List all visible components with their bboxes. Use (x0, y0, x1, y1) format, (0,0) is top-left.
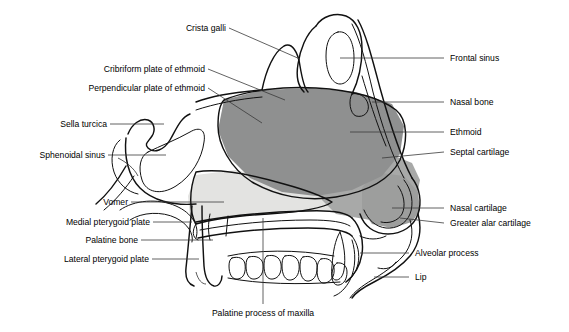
label-perpendicular-plate-of-ethmoid: Perpendicular plate of ethmoid (88, 83, 205, 93)
upper-lip-inner (350, 220, 412, 298)
teeth-row (228, 251, 347, 285)
label-lip: Lip (415, 272, 427, 282)
teeth-gumline (228, 251, 334, 256)
label-ethmoid: Ethmoid (450, 127, 482, 137)
label-crista-galli: Crista galli (186, 23, 226, 33)
sphenoid-body-lower (126, 138, 196, 204)
label-nasal-cartilage: Nasal cartilage (450, 203, 507, 213)
tooth (264, 255, 281, 279)
anatomy-diagram: Crista galli Cribriform plate of ethmoid… (0, 0, 569, 332)
sella-turcica (128, 114, 190, 151)
tooth (282, 255, 299, 280)
teeth-occlusal-line (228, 278, 340, 284)
label-cribriform-plate-of-ethmoid: Cribriform plate of ethmoid (104, 64, 205, 74)
label-medial-pterygoid-plate: Medial pterygoid plate (66, 217, 150, 227)
frontal-bone-contour (316, 14, 362, 94)
label-septal-cartilage: Septal cartilage (450, 147, 509, 157)
label-sphenoidal-sinus: Sphenoidal sinus (40, 150, 105, 160)
figure-canvas: Crista galli Cribriform plate of ethmoid… (0, 0, 569, 332)
tooth (246, 256, 263, 279)
label-palatine-process-of-maxilla: Palatine process of maxilla (212, 308, 314, 318)
hard-palate-lower (198, 228, 352, 238)
label-vomer: Vomer (103, 197, 128, 207)
leader-crista-galli (229, 28, 300, 59)
tooth (300, 256, 317, 281)
label-greater-alar-cartilage: Greater alar cartilage (450, 218, 531, 228)
label-text-bottom: Palatine process of maxilla (212, 308, 314, 318)
label-nasal-bone: Nasal bone (450, 97, 494, 107)
columella-base (360, 236, 386, 239)
frontal-bone-inner-contour (297, 26, 316, 92)
label-palatine-bone: Palatine bone (85, 235, 138, 245)
label-sella-turcica: Sella turcica (60, 119, 107, 129)
lip-vermilion (378, 262, 396, 269)
label-text-left: Crista galli Cribriform plate of ethmoid… (40, 23, 227, 264)
label-text-right: Frontal sinus Nasal bone Ethmoid Septal … (415, 53, 531, 282)
tooth (229, 257, 245, 279)
label-frontal-sinus: Frontal sinus (450, 53, 499, 63)
label-alveolar-process: Alveolar process (415, 248, 479, 258)
label-lateral-pterygoid-plate: Lateral pterygoid plate (64, 254, 149, 264)
